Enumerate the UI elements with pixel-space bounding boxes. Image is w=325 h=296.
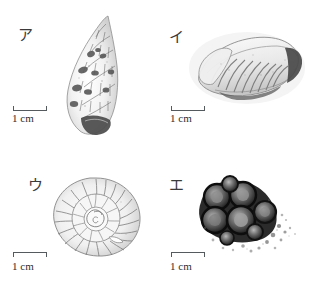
panel-u: ウ <box>0 148 162 296</box>
coral-colony-fossil-image <box>185 170 307 262</box>
scale-bar-i: 1 cm <box>169 104 215 124</box>
scale-bar-caption-e: 1 cm <box>170 260 215 272</box>
panel-label-u: ウ <box>28 178 43 193</box>
ammonite-fossil-image <box>46 174 146 260</box>
scale-bar-graphic-u <box>13 252 47 259</box>
panel-i: イ <box>163 0 325 148</box>
scale-bar-a: 1 cm <box>11 104 57 124</box>
scale-bar-e: 1 cm <box>169 252 215 272</box>
scale-bar-graphic-a <box>13 104 47 111</box>
trilobite-fossil-image <box>185 20 307 112</box>
scale-bar-caption-a: 1 cm <box>12 112 57 124</box>
scale-bar-u: 1 cm <box>11 252 57 272</box>
panel-label-a: ア <box>18 28 33 43</box>
panel-label-i: イ <box>169 30 184 45</box>
scale-bar-caption-u: 1 cm <box>12 260 57 272</box>
spiny-gastropod-shell-image <box>55 14 140 140</box>
fossil-specimen-figure: ア <box>0 0 325 296</box>
scale-bar-graphic-e <box>171 252 205 259</box>
panel-a: ア <box>0 0 162 148</box>
panel-e: エ <box>163 148 325 296</box>
panel-label-e: エ <box>169 178 184 193</box>
scale-bar-caption-i: 1 cm <box>170 112 215 124</box>
scale-bar-graphic-i <box>171 104 205 111</box>
